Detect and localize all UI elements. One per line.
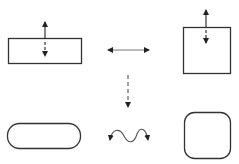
wavy-double-arrow-icon bbox=[110, 129, 148, 142]
diagram-canvas bbox=[0, 0, 239, 164]
square-shape[interactable] bbox=[184, 28, 231, 74]
rounded-square-shape[interactable] bbox=[185, 113, 231, 159]
pill-shape[interactable] bbox=[8, 124, 81, 149]
